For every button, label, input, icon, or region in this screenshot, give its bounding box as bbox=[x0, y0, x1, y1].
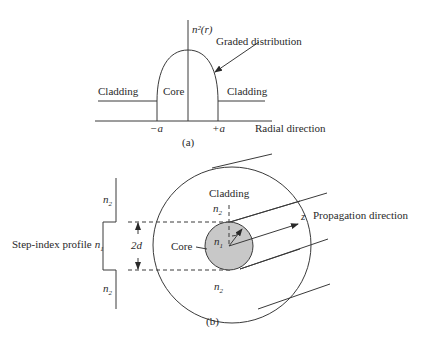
cladding-bottom-edge bbox=[258, 284, 330, 309]
fiber-index-diagram: n²(r) Graded distribution Cladding Core … bbox=[0, 0, 422, 341]
cladding-n2-top: n2 bbox=[213, 202, 223, 217]
profile-n2-bottom: n2 bbox=[103, 282, 113, 297]
diameter-label: 2d bbox=[131, 239, 143, 251]
step-index-profile-label: Step-index profilen1 bbox=[12, 238, 104, 253]
x-axis-label: Radial direction bbox=[255, 122, 326, 134]
cladding-top-edge bbox=[212, 154, 272, 168]
profile-n2-top: n2 bbox=[103, 193, 113, 208]
right-cladding-label: Cladding bbox=[227, 85, 268, 97]
caption-b: (b) bbox=[206, 315, 219, 328]
cladding-label: Cladding bbox=[209, 187, 250, 199]
propagation-direction-label: Propagation direction bbox=[313, 209, 409, 221]
tick-plus-a: +a bbox=[212, 122, 225, 134]
y-axis-label: n²(r) bbox=[192, 23, 213, 36]
left-cladding-label: Cladding bbox=[98, 85, 139, 97]
tick-minus-a: −a bbox=[150, 122, 163, 134]
graded-distribution-label: Graded distribution bbox=[216, 35, 302, 47]
graded-index-profile-panel: n²(r) Graded distribution Cladding Core … bbox=[95, 20, 326, 149]
core-label: Core bbox=[163, 85, 185, 97]
caption-a: (a) bbox=[182, 136, 195, 149]
step-index-fiber-panel: n2 n2 Step-index profilen1 2d Cladding bbox=[12, 154, 409, 328]
core-label: Core bbox=[171, 240, 193, 252]
cladding-n2-bottom: n2 bbox=[214, 280, 224, 295]
z-axis-label: z bbox=[300, 210, 306, 222]
core-top-edge-inner bbox=[230, 201, 300, 222]
